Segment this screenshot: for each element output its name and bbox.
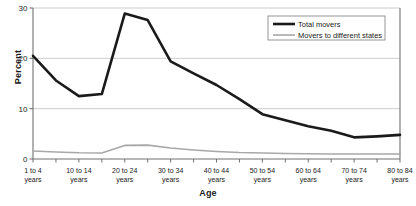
chart-legend: Total moversMovers to different states bbox=[268, 16, 385, 40]
x-tick-label-unit: years bbox=[300, 176, 318, 184]
x-tick-label-unit: years bbox=[346, 176, 364, 184]
x-tick-label: 60 to 64 bbox=[296, 167, 321, 174]
x-tick-label: 20 to 24 bbox=[112, 167, 137, 174]
x-tick-label-unit: years bbox=[391, 176, 409, 184]
y-tick-label: 0 bbox=[23, 155, 28, 164]
x-tick-label: 30 to 34 bbox=[158, 167, 183, 174]
series-line bbox=[33, 145, 400, 154]
y-tick-label: 20 bbox=[19, 54, 28, 63]
x-tick-label-unit: years bbox=[70, 176, 88, 184]
x-tick-label: 10 to 14 bbox=[66, 167, 91, 174]
y-tick-label: 30 bbox=[19, 4, 28, 13]
y-tick-label: 10 bbox=[19, 105, 28, 114]
x-tick-label-unit: years bbox=[254, 176, 272, 184]
legend-label: Total movers bbox=[298, 20, 341, 29]
x-tick-label-unit: years bbox=[24, 176, 42, 184]
x-tick-label: 1 to 4 bbox=[24, 167, 42, 174]
x-axis-tick-labels: 1 to 4years10 to 14years20 to 24years30 … bbox=[24, 167, 413, 184]
x-tick-label-unit: years bbox=[208, 176, 226, 184]
x-tick-label: 80 to 84 bbox=[387, 167, 412, 174]
legend-label: Movers to different states bbox=[298, 31, 382, 40]
y-axis-ticks: 0102030 bbox=[19, 4, 33, 164]
x-tick-label-unit: years bbox=[162, 176, 180, 184]
x-tick-label-unit: years bbox=[116, 176, 134, 184]
x-tick-label: 40 to 44 bbox=[204, 167, 229, 174]
chart-container: Percent Age 0102030 1 to 4years10 to 14y… bbox=[0, 0, 416, 206]
chart-plot: 0102030 1 to 4years10 to 14years20 to 24… bbox=[0, 0, 416, 206]
x-tick-label: 50 to 54 bbox=[250, 167, 275, 174]
x-tick-label: 70 to 74 bbox=[341, 167, 366, 174]
